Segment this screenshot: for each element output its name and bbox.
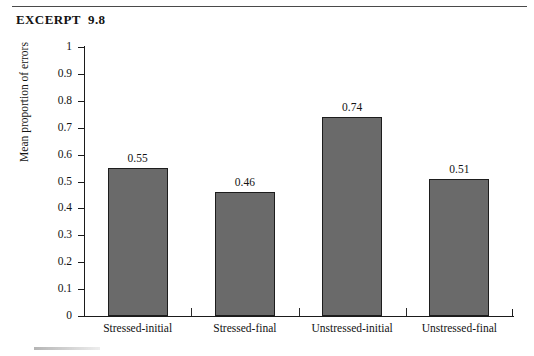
bar	[322, 117, 382, 316]
x-axis-divider-tick	[191, 308, 192, 316]
y-axis-tick	[78, 47, 84, 48]
y-axis-tick-label: 0.6	[12, 149, 72, 161]
y-axis-tick-label: 0.4	[12, 202, 72, 214]
y-axis-tick	[78, 262, 84, 263]
y-axis-tick	[78, 101, 84, 102]
y-axis-tick-label: 0.7	[12, 122, 72, 134]
y-axis-tick-label: 0.3	[12, 229, 72, 241]
y-axis-tick	[78, 289, 84, 290]
y-axis-tick-label: 0.9	[12, 68, 72, 80]
bar	[215, 192, 275, 316]
y-axis-tick-label: 0	[12, 310, 72, 322]
x-axis-category-label: Unstressed-final	[389, 322, 529, 335]
y-axis-tick	[78, 235, 84, 236]
bar-value-label: 0.46	[205, 176, 285, 188]
y-axis-tick	[78, 74, 84, 75]
x-axis-divider-tick	[406, 308, 407, 316]
x-axis-end-tick	[512, 309, 513, 317]
y-axis-tick	[78, 128, 84, 129]
y-axis-tick	[78, 316, 84, 317]
y-axis-tick	[78, 155, 84, 156]
y-axis-tick-label: 0.5	[12, 176, 72, 188]
bar-value-label: 0.51	[419, 163, 499, 175]
bar	[429, 179, 489, 316]
y-axis-tick-label: 0.8	[12, 95, 72, 107]
x-axis-divider-tick	[299, 308, 300, 316]
bar	[108, 168, 168, 316]
scan-artifact	[34, 347, 100, 350]
y-axis-tick	[78, 208, 84, 209]
y-axis-tick-label: 1	[12, 41, 72, 53]
x-axis-line	[84, 316, 514, 317]
bar-chart: Mean proportion of errors 10.90.80.70.60…	[0, 0, 534, 356]
y-axis-tick	[78, 182, 84, 183]
y-axis-tick-label: 0.2	[12, 256, 72, 268]
bar-value-label: 0.55	[98, 152, 178, 164]
y-axis-tick-label: 0.1	[12, 283, 72, 295]
bar-value-label: 0.74	[312, 101, 392, 113]
y-axis-line	[84, 46, 85, 317]
